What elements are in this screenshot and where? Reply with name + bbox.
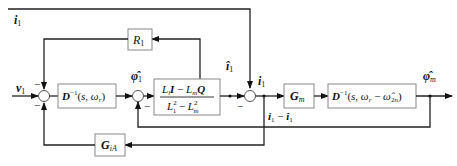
sign-sum1-top: − (34, 78, 40, 90)
label-i1-error: i1 − î1 (268, 110, 293, 124)
r1-to-sum1-wire (44, 39, 128, 89)
sign-sum3-bottom: − (237, 100, 243, 112)
sign-sum1-bottom: − (34, 99, 40, 111)
summing-junction-3 (245, 91, 256, 102)
node-i1-hat (228, 94, 231, 97)
label-i1-top: i1 (14, 13, 21, 28)
label-phi1-hat: φ̂1 (131, 69, 142, 84)
label-v1: v1 (16, 81, 25, 96)
gia-to-sum1-wire (44, 103, 95, 145)
label-observer-numerator: LlI − LmQ (161, 83, 205, 97)
label-i1-hat: î1 (226, 59, 233, 74)
sign-sum2-bottom: − (144, 100, 150, 112)
summing-junction-2 (133, 91, 144, 102)
label-i1: i1 (258, 74, 265, 89)
block-diagram: i1 v1 − − R1 D−1(s, ωr) φ̂1 − LlI − LmQ … (0, 0, 457, 166)
label-phim-hat: φ̂m (423, 69, 436, 84)
